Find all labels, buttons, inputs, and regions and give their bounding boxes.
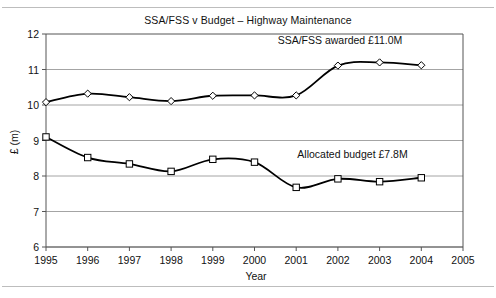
x-tick-label-1998: 1998 xyxy=(159,254,183,266)
x-tick-label-1999: 1999 xyxy=(201,254,225,266)
data-point-marker xyxy=(251,92,258,99)
x-tick-label-2004: 2004 xyxy=(410,254,434,266)
x-tick-label-2001: 2001 xyxy=(285,254,309,266)
data-point-marker xyxy=(376,178,382,184)
x-tick-label-1995: 1995 xyxy=(34,254,58,266)
y-tick-label-9: 9 xyxy=(33,135,39,147)
series-1 xyxy=(42,59,425,106)
y-tick-label-8: 8 xyxy=(33,170,39,182)
x-tick-label-1996: 1996 xyxy=(76,254,100,266)
y-axis-tick-labels: 6789101112 xyxy=(27,28,39,253)
x-tick-label-1997: 1997 xyxy=(118,254,142,266)
annotation-2: Allocated budget £7.8M xyxy=(297,148,407,160)
annotation-1: SSA/FSS awarded £11.0M xyxy=(278,34,403,46)
chart-figure: SSA/FSS v Budget – Highway Maintenance 6… xyxy=(0,0,496,298)
chart-plot-svg: 6789101112 19951996199719981999200020012… xyxy=(0,0,496,298)
data-series xyxy=(42,59,425,191)
data-point-marker xyxy=(293,92,300,99)
series-2 xyxy=(43,134,425,191)
y-tick-label-12: 12 xyxy=(27,28,39,40)
x-tick-label-2000: 2000 xyxy=(243,254,267,266)
data-point-marker xyxy=(418,175,424,181)
y-tick-label-7: 7 xyxy=(33,206,39,218)
x-tick-label-2002: 2002 xyxy=(326,254,350,266)
series-line xyxy=(46,137,421,188)
data-point-marker xyxy=(168,97,175,104)
y-tick-label-10: 10 xyxy=(27,99,39,111)
data-point-marker xyxy=(126,94,133,101)
data-point-marker xyxy=(251,159,257,165)
y-axis-title: £ (m) xyxy=(8,130,20,155)
y-tick-label-11: 11 xyxy=(28,64,39,76)
x-tick-label-2003: 2003 xyxy=(368,254,392,266)
data-point-marker xyxy=(418,62,425,69)
data-point-marker xyxy=(334,62,341,69)
data-point-marker xyxy=(335,176,341,182)
data-point-marker xyxy=(85,154,91,160)
x-tick-label-2005: 2005 xyxy=(451,254,475,266)
gridlines xyxy=(46,34,463,247)
data-point-marker xyxy=(84,90,91,97)
series-line xyxy=(46,62,421,102)
data-point-marker xyxy=(376,59,383,66)
axis-ticks xyxy=(42,34,463,251)
data-point-marker xyxy=(126,161,132,167)
data-point-marker xyxy=(43,134,49,140)
data-point-marker xyxy=(168,168,174,174)
data-point-marker xyxy=(210,156,216,162)
y-tick-label-6: 6 xyxy=(33,241,39,253)
data-point-marker xyxy=(209,92,216,99)
x-axis-title: Year xyxy=(245,270,267,282)
data-point-marker xyxy=(293,184,299,190)
x-axis-tick-labels: 1995199619971998199920002001200220032004… xyxy=(34,254,475,266)
